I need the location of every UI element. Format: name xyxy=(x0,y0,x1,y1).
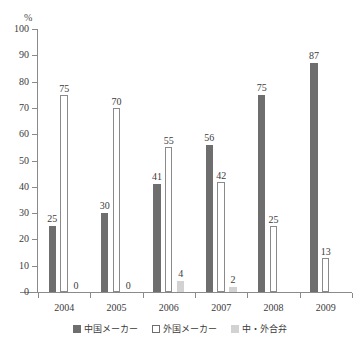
bar[interactable]: 25 xyxy=(270,226,277,292)
bar-group: 30700 xyxy=(90,29,142,292)
x-axis-tick xyxy=(247,293,248,298)
y-axis-tick-label: 20 xyxy=(3,234,29,244)
y-axis-tick xyxy=(32,55,37,56)
bar-value-label: 4 xyxy=(178,268,183,279)
bar-value-label: 13 xyxy=(321,246,331,257)
bar[interactable]: 75 xyxy=(258,95,265,292)
bar-group: 56422 xyxy=(195,29,247,292)
legend-swatch-icon xyxy=(73,325,81,333)
bar[interactable]: 75 xyxy=(60,95,67,292)
y-axis-tick-label: 80 xyxy=(3,77,29,87)
bar[interactable]: 56 xyxy=(206,145,213,292)
y-axis-tick-label-wrap: 40 xyxy=(0,182,29,192)
plot-area: 2575030700415545642275258713 xyxy=(38,29,352,292)
bar[interactable]: 30 xyxy=(101,213,108,292)
bar[interactable]: 2 xyxy=(229,287,236,292)
legend-label: 外国メーカー xyxy=(163,322,217,335)
bar-value-label: 55 xyxy=(164,135,174,146)
bar-value-label: 42 xyxy=(216,170,226,181)
y-axis-tick-label-wrap: 30 xyxy=(0,208,29,218)
bar[interactable]: 13 xyxy=(322,258,329,292)
y-axis-tick-label: 100 xyxy=(3,24,29,34)
bar[interactable]: 55 xyxy=(165,147,172,292)
bar-group: 25750 xyxy=(38,29,90,292)
y-axis-tick xyxy=(32,161,37,162)
bar-value-label: 87 xyxy=(309,50,319,61)
y-axis-tick-label: 0 xyxy=(3,287,29,297)
legend-item[interactable]: 外国メーカー xyxy=(152,322,217,335)
y-axis-tick-label: 60 xyxy=(3,129,29,139)
bar-value-label: 0 xyxy=(126,280,131,291)
bar-value-label: 56 xyxy=(204,132,214,143)
x-axis-tick xyxy=(195,293,196,298)
y-axis-tick xyxy=(32,108,37,109)
y-axis-tick-label-wrap: 70 xyxy=(0,103,29,113)
y-axis-tick xyxy=(32,292,37,293)
y-axis-tick xyxy=(32,29,37,30)
x-axis-tick-label: 2009 xyxy=(300,302,352,314)
x-axis-tick xyxy=(38,293,39,298)
y-axis-tick-label: 40 xyxy=(3,182,29,192)
x-axis-tick-label: 2007 xyxy=(195,302,247,314)
bar-value-label: 41 xyxy=(152,171,162,182)
legend-label: 中国メーカー xyxy=(84,322,138,335)
legend-item[interactable]: 中国メーカー xyxy=(73,322,138,335)
x-axis-tick-label: 2005 xyxy=(91,302,143,314)
bar[interactable]: 42 xyxy=(217,182,224,292)
y-axis-tick xyxy=(32,134,37,135)
x-axis-tick-label: 2006 xyxy=(143,302,195,314)
legend-swatch-icon xyxy=(152,325,160,333)
bar[interactable]: 70 xyxy=(113,108,120,292)
bar[interactable]: 25 xyxy=(49,226,56,292)
y-axis-tick xyxy=(32,239,37,240)
y-axis-tick-label-wrap: 20 xyxy=(0,234,29,244)
y-axis-tick-label-wrap: 10 xyxy=(0,261,29,271)
y-axis-tick-label-wrap: 50 xyxy=(0,156,29,166)
bar-group: 8713 xyxy=(300,29,352,292)
y-axis-tick-label: 90 xyxy=(3,50,29,60)
y-axis-tick-label: 10 xyxy=(3,261,29,271)
bar[interactable]: 41 xyxy=(153,184,160,292)
y-axis-tick xyxy=(32,82,37,83)
y-axis-tick-label: 70 xyxy=(3,103,29,113)
y-axis-tick xyxy=(32,187,37,188)
x-axis-tick-label: 2008 xyxy=(248,302,300,314)
legend-label: 中・外合弁 xyxy=(242,322,287,335)
bar-group: 7525 xyxy=(247,29,299,292)
bar-value-label: 25 xyxy=(47,213,57,224)
bar-value-label: 0 xyxy=(74,280,79,291)
y-axis-tick-label-wrap: 60 xyxy=(0,129,29,139)
bar-value-label: 2 xyxy=(231,274,236,285)
bar-chart: % 1009080706050403020100 200420052006200… xyxy=(0,0,359,341)
bar-value-label: 25 xyxy=(268,214,278,225)
bar-group: 41554 xyxy=(143,29,195,292)
x-axis-tick xyxy=(90,293,91,298)
y-axis-tick xyxy=(32,213,37,214)
bar-value-label: 30 xyxy=(100,200,110,211)
bar-value-label: 70 xyxy=(111,96,121,107)
chart-legend: 中国メーカー外国メーカー中・外合弁 xyxy=(0,322,359,335)
x-axis-tick xyxy=(352,293,353,298)
y-axis-tick-label-wrap: 0 xyxy=(0,287,29,297)
legend-item[interactable]: 中・外合弁 xyxy=(231,322,287,335)
x-axis-tick xyxy=(300,293,301,298)
bar[interactable]: 4 xyxy=(177,281,184,292)
y-axis-tick xyxy=(32,266,37,267)
y-axis-tick-label-wrap: 100 xyxy=(0,24,29,34)
bar-value-label: 75 xyxy=(257,82,267,93)
bar-value-label: 75 xyxy=(59,83,69,94)
y-axis-tick-label: 30 xyxy=(3,208,29,218)
y-axis-tick-label-wrap: 80 xyxy=(0,77,29,87)
y-axis-tick-label-wrap: 90 xyxy=(0,50,29,60)
legend-swatch-icon xyxy=(231,325,239,333)
y-axis-tick-label: 50 xyxy=(3,156,29,166)
bar[interactable]: 87 xyxy=(310,63,317,292)
x-axis-tick xyxy=(143,293,144,298)
x-axis-tick-label: 2004 xyxy=(38,302,90,314)
x-axis-line xyxy=(20,292,352,293)
